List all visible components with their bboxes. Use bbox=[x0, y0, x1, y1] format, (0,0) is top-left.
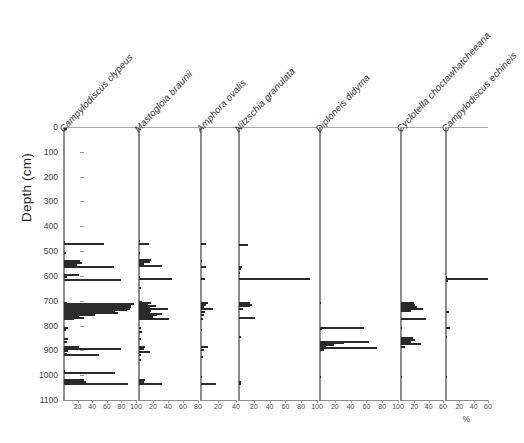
abundance-bar bbox=[446, 376, 447, 378]
abundance-bar bbox=[401, 318, 426, 320]
species-label: Campylodiscus echineis bbox=[439, 50, 519, 134]
x-tick-label: 20 bbox=[410, 403, 418, 410]
abundance-bar bbox=[320, 328, 322, 330]
y-tick-label: 200 bbox=[24, 172, 58, 182]
abundance-bar bbox=[64, 341, 67, 343]
species-panel bbox=[400, 127, 443, 400]
y-tick-label: 500 bbox=[24, 246, 58, 256]
x-tick-label: 80 bbox=[194, 403, 202, 410]
abundance-bar bbox=[64, 329, 66, 331]
x-tick-label: 40 bbox=[232, 403, 240, 410]
panel-baseline bbox=[239, 128, 240, 400]
abundance-bar bbox=[64, 318, 74, 320]
y-tick-label: 0 bbox=[24, 122, 58, 132]
abundance-bar bbox=[320, 347, 377, 349]
x-tick-label: 100 bbox=[392, 403, 404, 410]
abundance-bar bbox=[239, 336, 241, 338]
abundance-bar bbox=[139, 252, 140, 254]
species-label: Cyclotella choctawhatcheeana bbox=[394, 30, 492, 134]
abundance-bar bbox=[201, 383, 216, 385]
abundance-bar bbox=[320, 349, 324, 351]
abundance-bar bbox=[401, 376, 402, 378]
x-tick-label: 100 bbox=[130, 403, 142, 410]
abundance-bar bbox=[201, 356, 203, 358]
abundance-bar bbox=[64, 279, 121, 281]
y-tick-label: 800 bbox=[24, 321, 58, 331]
abundance-bar bbox=[139, 354, 141, 356]
abundance-bar bbox=[446, 327, 450, 329]
panel-baseline bbox=[201, 128, 202, 400]
y-tick-label: 600 bbox=[24, 271, 58, 281]
x-tick-label: 100 bbox=[311, 403, 323, 410]
abundance-bar bbox=[239, 272, 240, 274]
abundance-bar bbox=[239, 305, 250, 307]
y-axis-ticks: 010020030040050060070080090010001100 bbox=[22, 0, 58, 443]
abundance-bar bbox=[239, 278, 310, 280]
x-tick-label: 60 bbox=[362, 403, 370, 410]
abundance-bar bbox=[401, 310, 411, 312]
abundance-bar bbox=[139, 338, 141, 340]
abundance-bar bbox=[201, 260, 202, 262]
species-panel bbox=[63, 127, 136, 400]
abundance-bar bbox=[64, 252, 66, 254]
abundance-bar bbox=[64, 266, 114, 268]
abundance-bar bbox=[239, 308, 243, 310]
x-tick-label: 40 bbox=[425, 403, 433, 410]
panel-baseline bbox=[320, 128, 321, 400]
species-panel bbox=[319, 127, 398, 400]
x-tick-label: 60 bbox=[439, 403, 447, 410]
species-label: Campylodiscus clypeus bbox=[57, 52, 135, 134]
abundance-bar bbox=[239, 383, 241, 385]
abundance-bar bbox=[139, 243, 149, 245]
y-tick-label: 900 bbox=[24, 345, 58, 355]
x-tick-label: 20 bbox=[214, 403, 222, 410]
abundance-bar bbox=[201, 308, 213, 310]
abundance-bar bbox=[320, 302, 321, 304]
abundance-bar bbox=[64, 354, 99, 356]
x-tick-label: 60 bbox=[179, 403, 187, 410]
abundance-bar bbox=[64, 383, 128, 385]
abundance-bar bbox=[239, 244, 248, 246]
x-tick-label: 20 bbox=[455, 403, 463, 410]
abundance-bar bbox=[139, 265, 162, 267]
y-tick-label: 300 bbox=[24, 196, 58, 206]
x-tick-label: 60 bbox=[281, 403, 289, 410]
abundance-bar bbox=[201, 311, 205, 313]
abundance-bar bbox=[139, 359, 141, 361]
x-axis-line bbox=[319, 400, 398, 401]
abundance-bar bbox=[201, 376, 202, 378]
abundance-bar bbox=[401, 327, 402, 329]
x-tick-label: 40 bbox=[88, 403, 96, 410]
x-tick-label: 20 bbox=[74, 403, 82, 410]
abundance-bar bbox=[446, 336, 447, 338]
y-tick-label: 400 bbox=[24, 221, 58, 231]
x-axis-line bbox=[445, 400, 488, 401]
y-tick-label: 1100 bbox=[24, 395, 58, 405]
y-tick-label: 100 bbox=[24, 147, 58, 157]
panel-baseline bbox=[401, 128, 402, 400]
abundance-bar bbox=[201, 266, 206, 268]
abundance-bar bbox=[139, 327, 141, 329]
species-label: Diploneis didyma bbox=[313, 72, 372, 134]
abundance-bar bbox=[446, 311, 449, 313]
abundance-bar bbox=[64, 372, 115, 374]
abundance-bar bbox=[201, 278, 205, 280]
abundance-bar bbox=[446, 278, 488, 280]
abundance-bar bbox=[320, 376, 321, 378]
abundance-bar bbox=[139, 383, 162, 385]
abundance-bar bbox=[201, 243, 206, 245]
abundance-bar bbox=[239, 268, 241, 270]
abundance-bar bbox=[239, 317, 255, 319]
species-label: Nitzschia granulata bbox=[232, 65, 297, 134]
x-tick-label: 20 bbox=[250, 403, 258, 410]
x-axis-unit-label: % bbox=[463, 414, 471, 424]
abundance-bar bbox=[139, 318, 169, 320]
abundance-bar bbox=[139, 287, 141, 289]
abundance-bar bbox=[64, 348, 121, 350]
x-tick-label: 20 bbox=[149, 403, 157, 410]
abundance-bar bbox=[446, 280, 448, 282]
stratigraphic-diatom-chart: Depth (cm) 01002003004005006007008009001… bbox=[0, 0, 524, 443]
x-tick-label: 20 bbox=[331, 403, 339, 410]
abundance-bar bbox=[401, 346, 405, 348]
x-axis-line bbox=[238, 400, 317, 401]
